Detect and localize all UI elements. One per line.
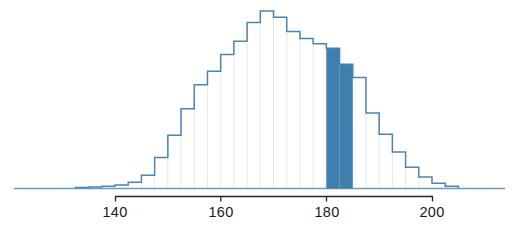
histogram-bar bbox=[168, 135, 181, 188]
histogram-bar bbox=[366, 113, 379, 188]
histogram-bar bbox=[419, 177, 432, 189]
histogram-bar bbox=[155, 157, 168, 188]
histogram-step-outline bbox=[75, 11, 458, 189]
histogram-bar bbox=[194, 85, 207, 189]
histogram-bar-highlighted bbox=[340, 64, 353, 188]
histogram-bar bbox=[392, 152, 405, 188]
x-axis-group bbox=[116, 197, 433, 202]
histogram-bar bbox=[313, 44, 326, 189]
histogram-bar bbox=[274, 17, 287, 188]
histogram-bar bbox=[432, 183, 445, 188]
histogram-bar bbox=[207, 71, 220, 188]
histogram-bar bbox=[128, 182, 141, 188]
histogram-bar bbox=[234, 41, 247, 188]
gridlines-group bbox=[141, 12, 418, 189]
x-tick-label-160: 160 bbox=[209, 204, 234, 220]
x-tick-label-200: 200 bbox=[420, 204, 445, 220]
histogram-bar bbox=[300, 39, 313, 189]
histogram-bar bbox=[247, 23, 260, 189]
histogram-outline bbox=[75, 11, 458, 189]
histogram-bar bbox=[379, 134, 392, 188]
histogram-bar-highlighted bbox=[326, 48, 339, 188]
x-tick-label-180: 180 bbox=[315, 204, 340, 220]
histogram-bar bbox=[353, 78, 366, 189]
histogram-bar bbox=[260, 11, 273, 189]
histogram-bar bbox=[141, 175, 154, 188]
highlight-bars-group bbox=[75, 11, 458, 189]
histogram-bar bbox=[221, 54, 234, 188]
x-tick-label-140: 140 bbox=[103, 204, 128, 220]
x-axis-line bbox=[116, 197, 433, 202]
histogram-bar bbox=[287, 31, 300, 188]
histogram-bar bbox=[181, 109, 194, 189]
histogram-figure: 140 160 180 200 bbox=[0, 0, 519, 250]
histogram-bar bbox=[406, 167, 419, 188]
